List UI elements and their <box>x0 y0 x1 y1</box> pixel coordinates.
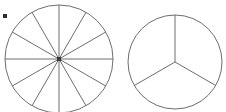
thirds-circle-group <box>128 15 222 109</box>
figure-svg <box>0 0 226 112</box>
left-circle-center-hub <box>57 57 61 61</box>
corner-dot <box>3 14 7 18</box>
fraction-circles-figure <box>0 0 226 112</box>
